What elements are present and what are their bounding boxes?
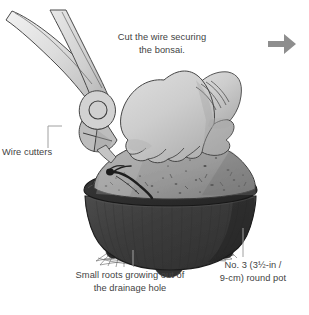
arrow-right-icon [268, 34, 296, 54]
leader-wire-cutters [48, 126, 62, 148]
bonsai-instruction-figure: Cut the wire securing the bonsai. Wire c… [0, 0, 309, 315]
wire-cutters-label: Wire cutters [2, 146, 76, 159]
small-roots-label: Small roots growing out of the drainage … [58, 269, 202, 294]
pot-spec-label: No. 3 (3½-in / 9-cm) round pot [204, 259, 302, 284]
hand-holding-root-ball [121, 71, 242, 163]
main-instruction-caption: Cut the wire securing the bonsai. [96, 31, 228, 56]
